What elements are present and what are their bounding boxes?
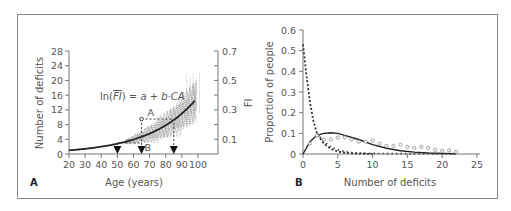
panel-label-b: B bbox=[295, 177, 303, 188]
y-tick-label: 20 bbox=[51, 75, 63, 86]
observed-point bbox=[420, 145, 423, 148]
y2-tick-label: 0.7 bbox=[222, 46, 237, 57]
y-tick-label: 0.4 bbox=[281, 66, 296, 77]
observed-point bbox=[378, 142, 381, 145]
observed-point bbox=[343, 136, 346, 139]
point-a-marker bbox=[140, 117, 144, 121]
y-tick-label: 0.2 bbox=[281, 107, 296, 118]
x-tick-label: 100 bbox=[189, 159, 207, 170]
y-axis-label-a: Number of deficits bbox=[34, 57, 45, 149]
y-tick-label: 28 bbox=[51, 46, 63, 57]
x-tick-label: 20 bbox=[63, 159, 75, 170]
x-tick-label: 40 bbox=[95, 159, 107, 170]
observed-point bbox=[371, 139, 374, 142]
observed-point bbox=[322, 138, 325, 141]
arrow-down-icon bbox=[170, 146, 178, 154]
x-tick-label: 30 bbox=[79, 159, 91, 170]
observed-point bbox=[455, 150, 458, 153]
observed-point bbox=[441, 149, 444, 152]
annotation-b: B bbox=[145, 142, 152, 153]
x-tick-label: 70 bbox=[144, 159, 156, 170]
observed-point bbox=[392, 144, 395, 147]
observed-point bbox=[315, 134, 318, 137]
arrow-down-icon bbox=[113, 146, 121, 154]
x-axis-label-a: Age (years) bbox=[105, 177, 163, 188]
y-tick-label: 12 bbox=[51, 104, 63, 115]
observed-point bbox=[448, 149, 451, 152]
y2-tick-label: 0.5 bbox=[222, 75, 237, 86]
chart-panel-a: 048121620242820304050607080901000.10.30.… bbox=[0, 0, 511, 211]
observed-point bbox=[364, 140, 367, 143]
y-tick-label: 0.3 bbox=[281, 87, 296, 98]
y2-axis-label-a: FI bbox=[243, 99, 254, 108]
y2-tick-label: 0.1 bbox=[222, 134, 237, 145]
observed-point bbox=[413, 146, 416, 149]
x-tick-label: 90 bbox=[176, 159, 188, 170]
y-tick-label: 24 bbox=[51, 60, 63, 71]
y-tick-label: 0 bbox=[290, 149, 296, 160]
x-tick-label: 15 bbox=[401, 159, 413, 170]
observed-point bbox=[350, 138, 353, 141]
y-tick-label: 0.1 bbox=[281, 128, 296, 139]
observed-point bbox=[385, 144, 388, 147]
observed-point bbox=[329, 138, 332, 141]
panel-label-a: A bbox=[30, 177, 38, 188]
observed-point bbox=[406, 145, 409, 148]
observed-point bbox=[427, 146, 430, 149]
observed-point bbox=[434, 148, 437, 151]
x-tick-label: 10 bbox=[367, 159, 379, 170]
x-tick-label: 20 bbox=[436, 159, 448, 170]
x-tick-label: 60 bbox=[127, 159, 139, 170]
x-axis-label-b: Number of deficits bbox=[344, 177, 436, 188]
x-tick-label: 25 bbox=[471, 159, 483, 170]
x-tick-label: 80 bbox=[160, 159, 172, 170]
y-tick-label: 0 bbox=[57, 149, 63, 160]
observed-point bbox=[399, 143, 402, 146]
y-tick-label: 8 bbox=[57, 119, 63, 130]
y-tick-label: 4 bbox=[57, 134, 63, 145]
observed-point bbox=[336, 136, 339, 139]
annotation-a: A bbox=[148, 107, 155, 118]
y-axis-label-b: Proportion of people bbox=[264, 41, 275, 143]
y-tick-label: 0.6 bbox=[281, 25, 296, 36]
y-tick-label: 0.5 bbox=[281, 45, 296, 56]
x-tick-label: 50 bbox=[111, 159, 123, 170]
x-tick-label: 0 bbox=[300, 159, 306, 170]
observed-point bbox=[308, 142, 311, 145]
x-tick-label: 5 bbox=[335, 159, 341, 170]
observed-point bbox=[357, 140, 360, 143]
y2-tick-label: 0.3 bbox=[222, 104, 237, 115]
y-tick-label: 16 bbox=[51, 90, 63, 101]
equation-label: ln(FI) = a + b·CA bbox=[100, 91, 185, 102]
